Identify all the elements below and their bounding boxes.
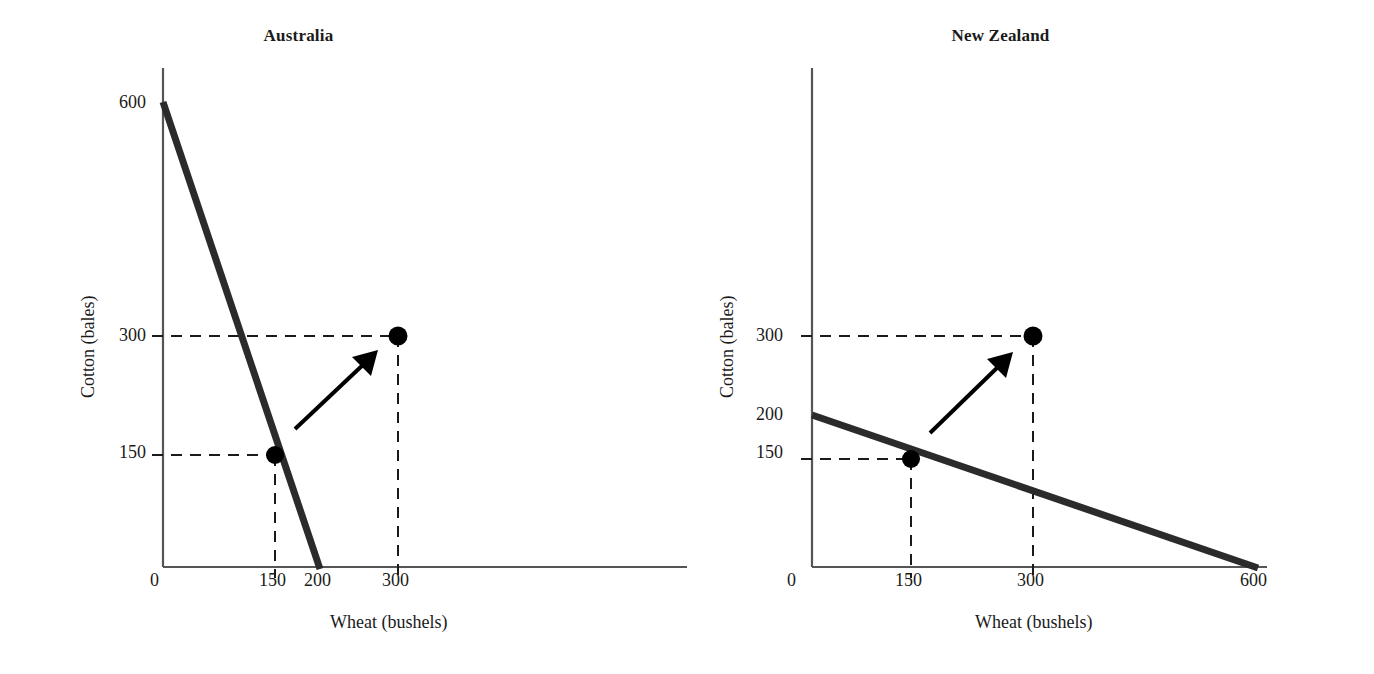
plot-area-australia xyxy=(0,0,687,674)
production-point-newzealand xyxy=(902,450,920,468)
gains-from-trade-arrow xyxy=(295,350,378,429)
plot-area-newzealand xyxy=(687,0,1374,674)
chart-panel-newzealand: New Zealand Cotton (bales) Wheat (bushel… xyxy=(687,0,1374,674)
gains-from-trade-arrow xyxy=(930,352,1013,433)
consumption-point-newzealand xyxy=(1024,327,1043,346)
ppf-line-newzealand xyxy=(812,415,1258,568)
production-point-australia xyxy=(266,446,284,464)
ppf-line-australia xyxy=(163,102,320,569)
consumption-point-australia xyxy=(389,327,408,346)
chart-panel-australia: Australia Cotton (bales) Wheat (bushels)… xyxy=(0,0,687,674)
